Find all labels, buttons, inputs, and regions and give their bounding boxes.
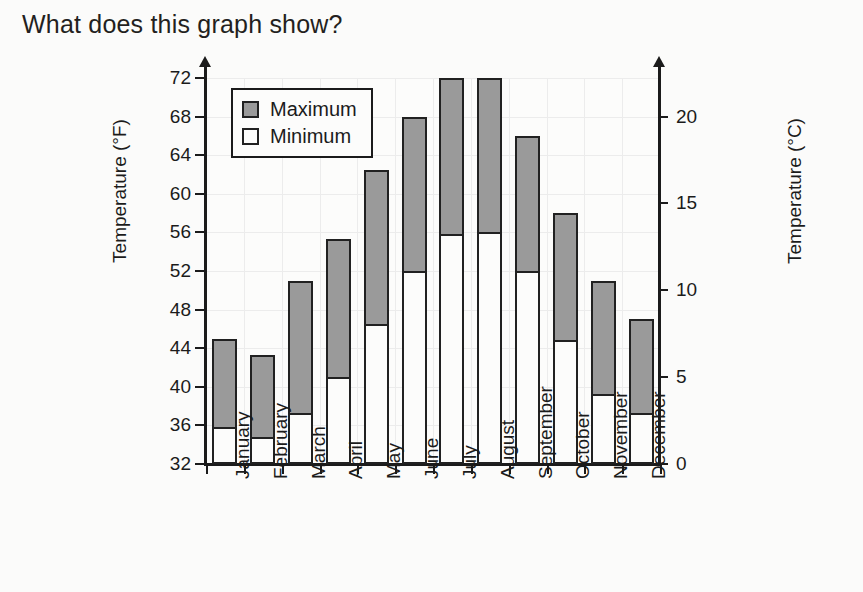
y-axis-left-tick-label: 40 xyxy=(170,376,191,398)
x-axis-tick xyxy=(206,465,208,474)
gridline-vertical xyxy=(395,78,396,464)
x-axis-tick-label: March xyxy=(308,426,330,479)
bar-maximum xyxy=(364,170,389,326)
chart-legend: MaximumMinimum xyxy=(231,88,373,158)
y-axis-left-tick xyxy=(195,116,205,118)
gridline-vertical xyxy=(509,78,510,464)
y-axis-left-tick xyxy=(195,193,205,195)
bar-maximum xyxy=(326,239,351,379)
x-axis-tick-label: June xyxy=(421,438,443,479)
y-axis-right-title: Temperature (°C) xyxy=(784,61,806,321)
temperature-range-chart: Temperature (°F) Temperature (°C) 323640… xyxy=(0,0,863,592)
legend-swatch-icon xyxy=(242,128,259,145)
y-axis-right-tick-label: 5 xyxy=(676,366,687,388)
x-axis-tick-label: February xyxy=(270,403,292,479)
y-axis-right-tick xyxy=(658,116,668,118)
y-axis-left-tick-label: 44 xyxy=(170,337,191,359)
x-axis-tick-label: September xyxy=(535,386,557,479)
legend-label: Maximum xyxy=(270,98,357,121)
x-axis-tick-label: December xyxy=(648,391,670,479)
legend-label: Minimum xyxy=(270,125,351,148)
y-axis-left-tick xyxy=(195,270,205,272)
gridline-vertical xyxy=(433,78,434,464)
bar-maximum xyxy=(591,281,616,396)
y-axis-left-arrow-icon xyxy=(199,56,211,67)
bar-group xyxy=(477,78,502,464)
y-axis-right-tick-label: 0 xyxy=(676,453,687,475)
y-axis-left-line xyxy=(204,64,207,466)
legend-item: Minimum xyxy=(242,123,357,150)
x-axis-tick-label: August xyxy=(497,420,519,479)
bar-maximum xyxy=(402,117,427,273)
gridline-vertical xyxy=(471,78,472,464)
bar-maximum xyxy=(515,136,540,273)
y-axis-right-arrow-icon xyxy=(653,56,665,67)
x-axis-tick-label: May xyxy=(383,443,405,479)
bar-maximum xyxy=(553,213,578,342)
bar-maximum xyxy=(477,78,502,234)
y-axis-right-tick xyxy=(658,289,668,291)
legend-item: Maximum xyxy=(242,96,357,123)
y-axis-left-tick-label: 68 xyxy=(170,106,191,128)
bar-group xyxy=(402,78,427,464)
bar-maximum xyxy=(288,281,313,415)
bar-group xyxy=(439,78,464,464)
y-axis-left-tick-label: 32 xyxy=(170,453,191,475)
y-axis-left-tick xyxy=(195,386,205,388)
y-axis-left-tick xyxy=(195,424,205,426)
bar-maximum xyxy=(439,78,464,236)
y-axis-left-tick xyxy=(195,154,205,156)
y-axis-left-tick xyxy=(195,77,205,79)
y-axis-right-tick xyxy=(658,376,668,378)
y-axis-left-tick xyxy=(195,463,205,465)
y-axis-left-tick-label: 64 xyxy=(170,144,191,166)
x-axis-tick-label: November xyxy=(610,391,632,479)
y-axis-right-tick-label: 10 xyxy=(676,279,697,301)
y-axis-left-tick-label: 72 xyxy=(170,67,191,89)
y-axis-left-tick xyxy=(195,309,205,311)
y-axis-left-tick xyxy=(195,231,205,233)
x-axis-tick-label: January xyxy=(232,411,254,479)
x-axis-tick-label: April xyxy=(345,441,367,479)
bar-minimum xyxy=(439,234,464,464)
y-axis-right-tick-label: 15 xyxy=(676,192,697,214)
y-axis-left-tick xyxy=(195,347,205,349)
x-axis-tick-label: July xyxy=(459,445,481,479)
y-axis-left-tick-label: 48 xyxy=(170,299,191,321)
x-axis-tick-label: October xyxy=(572,411,594,479)
y-axis-left-tick-label: 52 xyxy=(170,260,191,282)
y-axis-left-title: Temperature (°F) xyxy=(109,61,131,321)
y-axis-right-tick xyxy=(658,202,668,204)
y-axis-left-tick-label: 36 xyxy=(170,414,191,436)
legend-swatch-icon xyxy=(242,101,259,118)
y-axis-right-tick-label: 20 xyxy=(676,106,697,128)
y-axis-left-tick-label: 56 xyxy=(170,221,191,243)
y-axis-left-tick-label: 60 xyxy=(170,183,191,205)
bar-minimum xyxy=(402,271,427,464)
gridline-vertical xyxy=(584,78,585,464)
